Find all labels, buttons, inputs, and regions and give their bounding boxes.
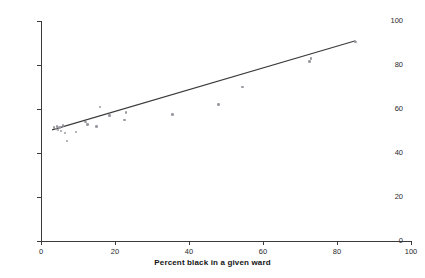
scatter-point xyxy=(217,103,220,106)
scatter-point xyxy=(354,41,357,44)
scatter-point xyxy=(58,126,61,129)
x-axis-title: Percent black in a given ward xyxy=(0,258,425,267)
top-caption-strip xyxy=(0,0,425,5)
x-tick-label: 20 xyxy=(100,248,130,256)
x-tick-label: 40 xyxy=(174,248,204,256)
regression-line xyxy=(41,21,412,242)
x-tick-label: 0 xyxy=(26,248,56,256)
scatter-point xyxy=(108,114,111,117)
scatter-point xyxy=(86,123,89,126)
x-tick-label: 80 xyxy=(322,248,352,256)
scatter-point xyxy=(171,113,174,116)
plot-area: 020406080100 020406080100 xyxy=(41,21,411,241)
scatter-point xyxy=(123,119,126,122)
x-tick-label: 100 xyxy=(396,248,425,256)
scatter-point xyxy=(95,125,98,128)
scatter-point xyxy=(308,60,311,63)
scatter-plot-figure: Percent vote Ford received in November 2… xyxy=(0,0,425,278)
x-tick-label: 60 xyxy=(248,248,278,256)
